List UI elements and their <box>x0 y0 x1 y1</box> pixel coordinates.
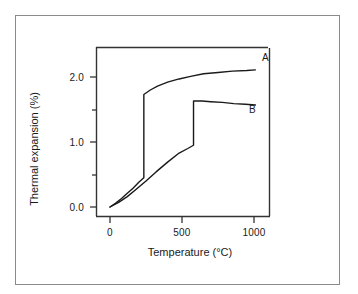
series-label-b: B <box>249 104 256 115</box>
ytick-label-1: 1.0 <box>58 137 84 148</box>
xtick-label-1000: 1000 <box>242 227 265 238</box>
x-axis-title: Temperature (°C) <box>110 246 270 258</box>
series-label-a: A <box>262 52 269 63</box>
y-axis-title: Thermal expansion (%) <box>28 69 40 229</box>
ytick-label-2: 2.0 <box>58 72 84 83</box>
axis-spines <box>96 47 270 217</box>
series-curve-a <box>110 70 255 207</box>
y-axis-ticks <box>90 77 96 207</box>
series-curve-b <box>110 101 255 207</box>
xtick-label-0: 0 <box>107 227 113 238</box>
ytick-label-0: 0.0 <box>58 202 84 213</box>
chart-page: 2.0 1.0 0.0 0 500 1000 Thermal expansion… <box>0 0 358 294</box>
xtick-label-500: 500 <box>173 227 190 238</box>
